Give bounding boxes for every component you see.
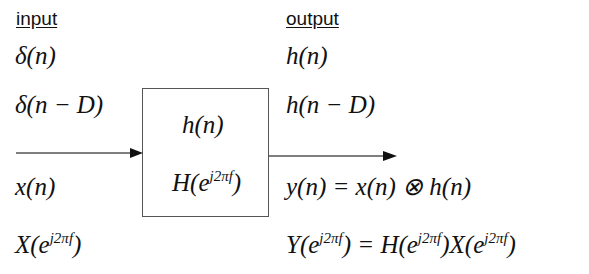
x-base: )X(e: [441, 231, 484, 258]
output-convolution: y(n) = x(n) ⊗ h(n): [286, 174, 471, 199]
x-exponent: j2πf: [484, 230, 507, 246]
output-arrow-head: [383, 151, 397, 161]
h-exponent: j2πf: [418, 230, 441, 246]
output-impulse-response: h(n): [286, 43, 328, 68]
y-exponent: j2πf: [319, 230, 342, 246]
product-close: ): [508, 231, 516, 258]
input-arrow-head: [130, 148, 143, 158]
output-delayed-response: h(n − D): [286, 92, 375, 117]
eq-h-base: ) = H(e: [343, 231, 418, 258]
output-product: Y(ej2πf) = H(ej2πf)X(ej2πf): [286, 232, 516, 257]
y-base: Y(e: [286, 231, 319, 258]
